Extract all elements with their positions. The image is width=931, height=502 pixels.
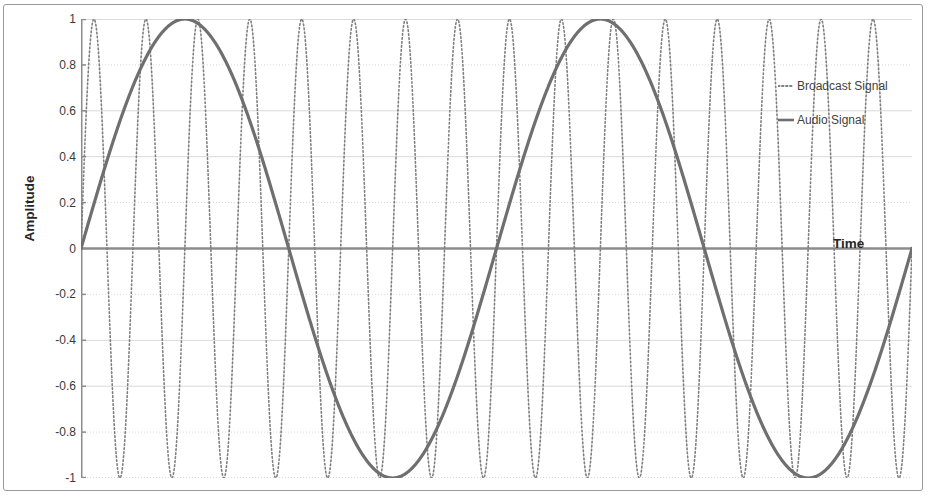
y-tick-label: 1: [30, 13, 76, 25]
legend-item-broadcast-signal: Broadcast Signal: [778, 74, 928, 98]
y-tick-label: -0.8: [30, 426, 76, 438]
y-tick-label: 0.4: [30, 151, 76, 163]
dotted-line-marker-icon: [778, 81, 794, 91]
solid-line-marker-icon: [778, 115, 794, 125]
chart-legend: Broadcast Signal Audio Signal: [778, 74, 928, 142]
y-tick-label: 0: [30, 243, 76, 255]
y-tick-label: 0.8: [30, 59, 76, 71]
chart-screenshot: Amplitude 1 0.8 0.6 0.4 0.2 0 -0.2 -0.4 …: [0, 0, 931, 502]
y-tick-label: -0.6: [30, 380, 76, 392]
y-axis-tick-labels: 1 0.8 0.6 0.4 0.2 0 -0.2 -0.4 -0.6 -0.8 …: [24, 19, 76, 478]
x-axis-title: Time: [833, 236, 864, 251]
y-tick-label: 0.6: [30, 105, 76, 117]
legend-item-audio-signal: Audio Signal: [778, 108, 928, 132]
legend-label-audio-signal: Audio Signal: [797, 113, 864, 127]
y-tick-label: -1: [30, 472, 76, 484]
y-tick-label: -0.2: [30, 288, 76, 300]
legend-label-broadcast-signal: Broadcast Signal: [797, 79, 888, 93]
y-tick-label: -0.4: [30, 334, 76, 346]
y-tick-label: 0.2: [30, 197, 76, 209]
chart-frame: Amplitude 1 0.8 0.6 0.4 0.2 0 -0.2 -0.4 …: [3, 4, 923, 491]
plot-area: Broadcast Signal Audio Signal: [81, 19, 912, 478]
